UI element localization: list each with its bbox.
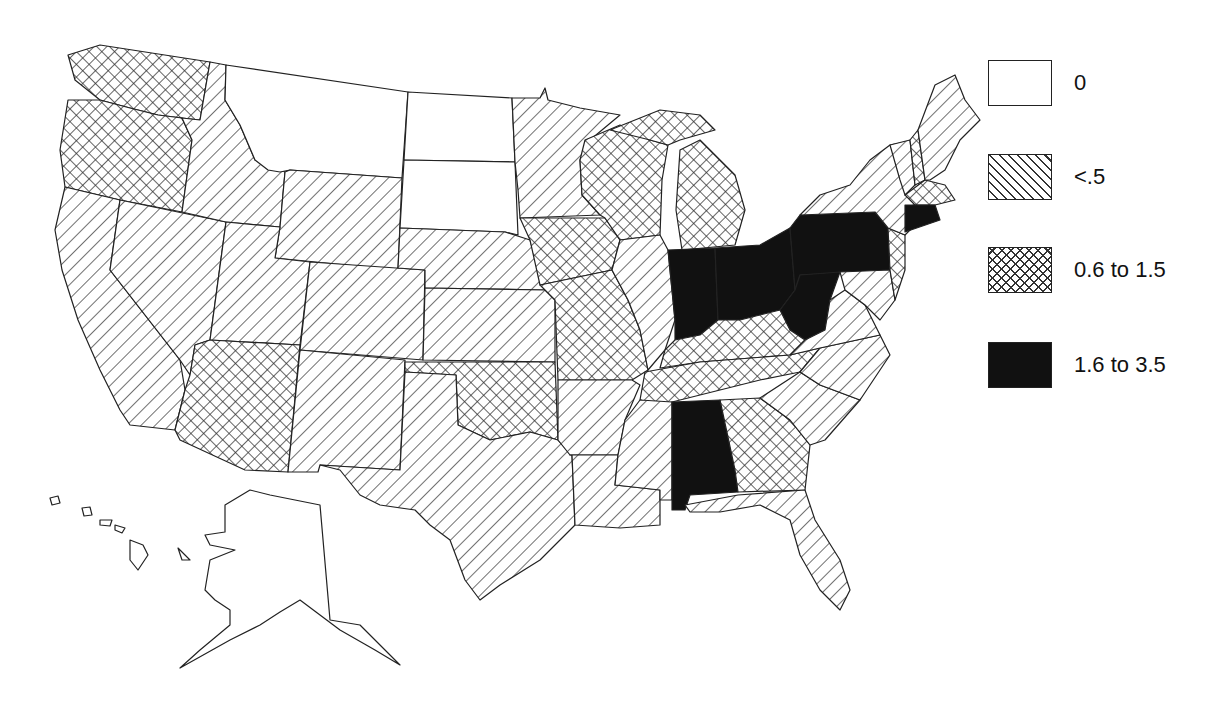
legend-swatch-cross-hatch: [988, 247, 1052, 293]
state-north-dakota: [404, 92, 515, 162]
state-alaska: [180, 490, 400, 668]
state-maine: [918, 75, 980, 180]
legend-swatch-white: [988, 60, 1052, 106]
state-florida: [685, 490, 850, 610]
legend-swatch-diagonal-hatch: [988, 154, 1052, 200]
legend-label: 0.6 to 1.5: [1074, 257, 1166, 283]
legend-item-zero: 0: [988, 60, 1086, 106]
legend-label: <.5: [1074, 164, 1105, 190]
state-michigan-lower: [676, 140, 745, 250]
state-kansas: [423, 288, 555, 362]
state-connecticut-rhode-island: [905, 205, 940, 232]
legend-item-high-range: 1.6 to 3.5: [988, 342, 1166, 388]
state-south-dakota: [400, 160, 518, 235]
legend-swatch-solid-black: [988, 342, 1052, 388]
legend-item-less-than-half: <.5: [988, 154, 1105, 200]
state-hawaii: [50, 496, 190, 570]
state-arizona: [175, 340, 300, 472]
state-wyoming: [275, 170, 402, 270]
state-colorado: [300, 262, 425, 360]
state-new-mexico: [288, 350, 405, 472]
legend-label: 0: [1074, 70, 1086, 96]
legend-item-mid-range: 0.6 to 1.5: [988, 247, 1166, 293]
legend-label: 1.6 to 3.5: [1074, 352, 1166, 378]
